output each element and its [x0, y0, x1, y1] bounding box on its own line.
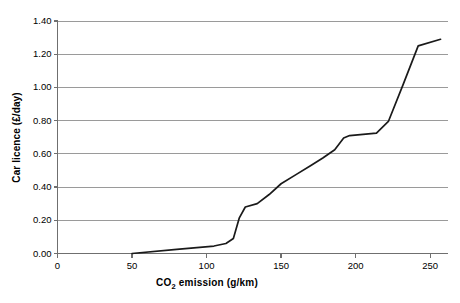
x-tick-label: 150 — [261, 260, 301, 271]
y-tick-label: 1.20 — [12, 48, 52, 59]
x-tick-label: 100 — [187, 260, 227, 271]
x-tick-label: 0 — [38, 260, 78, 271]
chart-container: Car licence (£/day) CO2 emission (g/km) … — [0, 0, 460, 303]
y-tick-label: 0.60 — [12, 148, 52, 159]
y-tick-label: 0.80 — [12, 115, 52, 126]
x-axis-title-rest: emission (g/km) — [176, 277, 258, 288]
x-axis-title-main: CO — [156, 277, 171, 288]
x-tick-label: 200 — [336, 260, 376, 271]
y-tick-label: 0.00 — [12, 248, 52, 259]
y-axis-title: Car licence (£/day) — [11, 48, 22, 228]
x-tick-label: 250 — [410, 260, 450, 271]
y-tick-label: 1.40 — [12, 15, 52, 26]
data-series-line — [132, 39, 441, 253]
y-tick-label: 1.00 — [12, 81, 52, 92]
y-tick-label: 0.40 — [12, 181, 52, 192]
x-axis-title: CO2 emission (g/km) — [57, 277, 357, 291]
line-chart-plot — [0, 0, 460, 303]
y-tick-label: 0.20 — [12, 214, 52, 225]
x-tick-label: 50 — [112, 260, 152, 271]
